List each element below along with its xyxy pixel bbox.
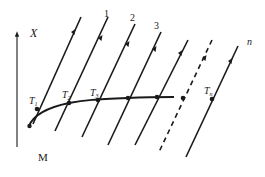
characteristic-line-0 bbox=[33, 17, 81, 124]
label-tn: Tn bbox=[204, 85, 213, 97]
characteristic-line-3 bbox=[108, 32, 161, 145]
point-dashed bbox=[181, 96, 186, 101]
characteristic-line-2 bbox=[82, 24, 135, 137]
line-stroke bbox=[55, 17, 108, 131]
line-stroke bbox=[82, 24, 135, 137]
label-t1: T1 bbox=[29, 95, 38, 107]
characteristic-line-n bbox=[186, 46, 238, 157]
point-t1 bbox=[35, 107, 40, 112]
line-3-label: 3 bbox=[154, 20, 159, 31]
characteristic-line-4 bbox=[135, 40, 188, 145]
point-t4 bbox=[126, 96, 131, 101]
characteristic-line-1 bbox=[55, 17, 108, 131]
x-axis-label: X bbox=[29, 26, 38, 40]
label-t3: T3 bbox=[90, 87, 99, 99]
label-t2: T2 bbox=[62, 89, 71, 101]
line-1-label: 1 bbox=[104, 8, 109, 19]
point-t2 bbox=[67, 101, 72, 106]
curve-start-point bbox=[27, 124, 31, 128]
point-t5 bbox=[155, 95, 160, 100]
line-n-label: n bbox=[247, 36, 252, 47]
point-tn bbox=[210, 97, 215, 102]
curve-m-label: M bbox=[38, 151, 48, 163]
line-stroke bbox=[135, 40, 188, 145]
characteristic-line-dashed bbox=[159, 40, 212, 152]
line-2-label: 2 bbox=[130, 12, 135, 23]
characteristic-lines-diagram: X 1 2 3 n T bbox=[0, 0, 265, 177]
